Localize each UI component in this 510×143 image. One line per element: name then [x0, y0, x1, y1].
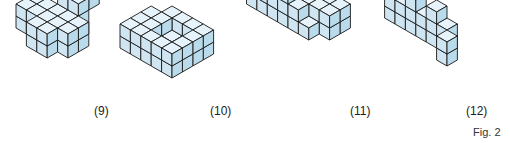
cube-solid-10	[120, 6, 214, 78]
solid-label-10: (10)	[210, 104, 231, 118]
figure-caption: Fig. 2	[473, 126, 501, 138]
solid-label-9: (9)	[94, 104, 109, 118]
cube-solid-9	[16, 0, 99, 58]
cube-solid-12	[385, 0, 458, 66]
solid-label-11: (11)	[350, 104, 370, 118]
cube-solid-11	[247, 0, 351, 40]
solid-label-12: (12)	[466, 104, 487, 118]
isometric-cube-figure	[0, 0, 510, 143]
